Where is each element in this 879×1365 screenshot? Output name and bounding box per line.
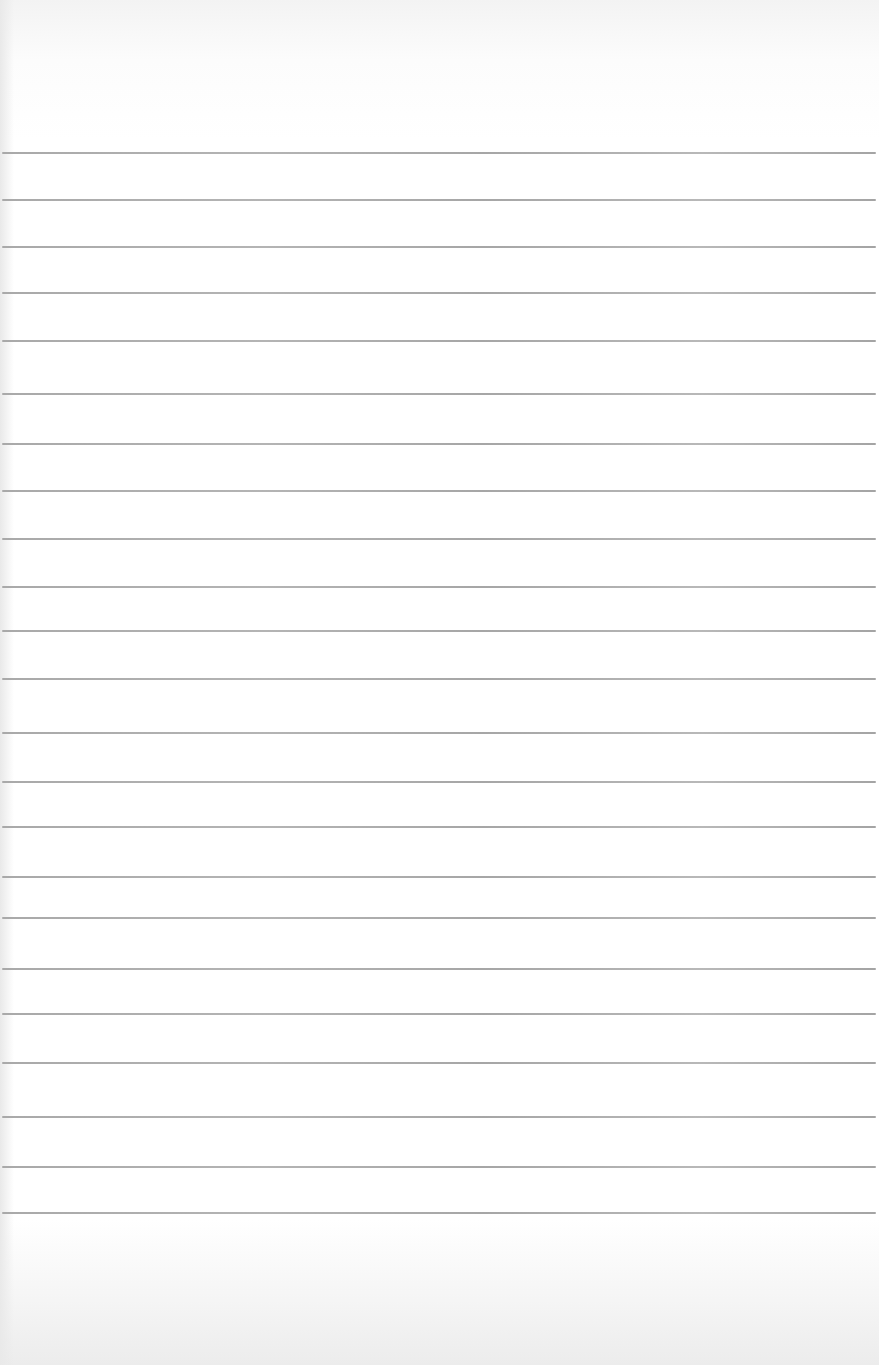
ruled-line: [2, 876, 876, 878]
ruled-line: [2, 968, 876, 970]
ruled-line: [2, 917, 876, 919]
ruled-line: [2, 732, 876, 734]
ruled-line: [2, 586, 876, 588]
ruled-line: [2, 538, 876, 540]
ruled-line: [2, 340, 876, 342]
ruled-line: [2, 1212, 876, 1214]
ruled-line: [2, 152, 876, 154]
paper-edge-shadow: [0, 0, 14, 1365]
ruled-line: [2, 1062, 876, 1064]
ruled-line: [2, 246, 876, 248]
ruled-line: [2, 678, 876, 680]
ruled-line: [2, 1166, 876, 1168]
ruled-line: [2, 826, 876, 828]
ruled-line: [2, 490, 876, 492]
ruled-line: [2, 1116, 876, 1118]
ruled-line: [2, 199, 876, 201]
ruled-line: [2, 443, 876, 445]
ruled-line: [2, 781, 876, 783]
ruled-line: [2, 393, 876, 395]
ruled-line: [2, 292, 876, 294]
ruled-line: [2, 630, 876, 632]
ruled-line: [2, 1013, 876, 1015]
